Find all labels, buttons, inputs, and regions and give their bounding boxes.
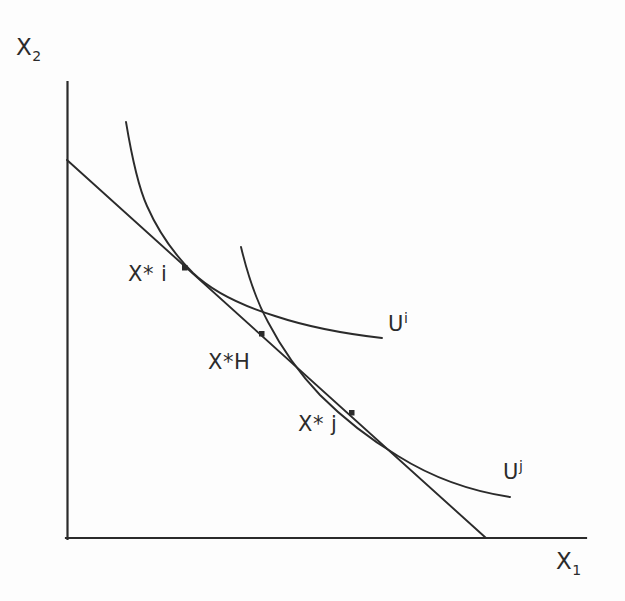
label-xstar-i: X* i <box>128 262 167 286</box>
label-curve-uj-main: U <box>503 460 519 484</box>
label-curve-ui-main: U <box>388 312 404 336</box>
marker-xstar-j <box>349 410 355 416</box>
y-axis-label-subscript: 2 <box>32 48 41 64</box>
chart-canvas <box>0 0 625 601</box>
indifference-curve-figure: X2 X1 X* i X*H X* j Ui Uj <box>0 0 625 601</box>
x-axis-label-main: X <box>556 548 572 574</box>
budget-line <box>67 160 486 538</box>
label-xstar-h: X*H <box>208 350 250 374</box>
label-curve-ui-superscript: i <box>404 310 408 326</box>
marker-xstar-h <box>259 331 265 337</box>
label-curve-uj: Uj <box>503 458 523 484</box>
x-axis-label-subscript: 1 <box>572 562 581 578</box>
label-curve-uj-superscript: j <box>519 458 523 474</box>
label-curve-ui: Ui <box>388 310 408 336</box>
y-axis-label: X2 <box>16 34 41 64</box>
indifference-curve-uj <box>241 247 510 497</box>
x-axis-label: X1 <box>556 548 581 578</box>
label-xstar-j: X* j <box>298 412 337 436</box>
marker-xstar-i <box>182 265 188 271</box>
y-axis-label-main: X <box>16 34 32 60</box>
indifference-curve-ui <box>126 122 382 338</box>
